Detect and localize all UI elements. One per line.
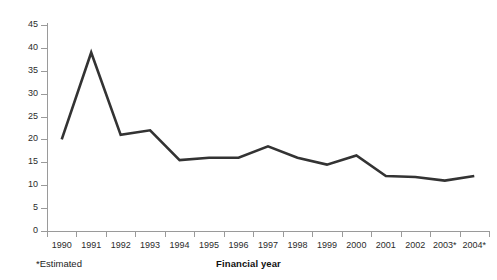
x-axis-tick-label: 2000 (342, 240, 371, 250)
x-axis-tick (253, 231, 254, 237)
x-axis-tick-label: 2004* (460, 240, 489, 250)
x-axis-tick (489, 231, 490, 237)
x-axis-tick-label: 2002 (401, 240, 430, 250)
y-axis-tick-label: 10 (4, 180, 38, 189)
x-axis-tick-label: 1994 (165, 240, 194, 250)
y-axis-tick-label: 45 (4, 20, 38, 29)
y-axis-tick-label: 20 (4, 134, 38, 143)
x-axis-tick (430, 231, 431, 237)
x-axis-tick-label: 1990 (47, 240, 76, 250)
x-axis-tick (342, 231, 343, 237)
x-axis-tick (106, 231, 107, 237)
x-axis-tick (135, 231, 136, 237)
x-axis-line (47, 231, 489, 232)
x-axis-tick (224, 231, 225, 237)
y-axis-tick (41, 71, 47, 72)
y-axis-tick-label: 15 (4, 157, 38, 166)
x-axis-tick-label: 1996 (224, 240, 253, 250)
y-axis-tick (41, 48, 47, 49)
x-axis-tick-label: 1995 (194, 240, 223, 250)
y-axis-tick (41, 139, 47, 140)
y-axis-tick-label: 25 (4, 112, 38, 121)
y-axis-tick-label: 40 (4, 43, 38, 52)
x-axis-tick (283, 231, 284, 237)
y-axis-tick (41, 94, 47, 95)
x-axis-tick-label: 1991 (76, 240, 105, 250)
x-axis-tick-label: 1997 (253, 240, 282, 250)
x-axis-tick (165, 231, 166, 237)
x-axis-tick-label: 1992 (106, 240, 135, 250)
y-axis-tick (41, 208, 47, 209)
y-axis-line (47, 23, 48, 232)
x-axis-tick (371, 231, 372, 237)
x-axis-tick (401, 231, 402, 237)
x-axis-tick-label: 2001 (371, 240, 400, 250)
y-axis-tick (41, 117, 47, 118)
y-axis-tick-label: 0 (4, 226, 38, 235)
x-axis-tick-label: 1999 (312, 240, 341, 250)
x-axis-title: Financial year (0, 258, 497, 269)
y-axis-tick (41, 162, 47, 163)
x-axis-tick (460, 231, 461, 237)
x-axis-tick (76, 231, 77, 237)
y-axis-tick-label: 30 (4, 89, 38, 98)
x-axis-tick-label: 1993 (135, 240, 164, 250)
y-axis-tick (41, 25, 47, 26)
data-line (0, 0, 497, 280)
x-axis-tick-label: 2003* (430, 240, 459, 250)
x-axis-tick-label: 1998 (283, 240, 312, 250)
y-axis-tick-label: 5 (4, 203, 38, 212)
x-axis-tick (194, 231, 195, 237)
x-axis-tick (47, 231, 48, 237)
y-axis-tick (41, 185, 47, 186)
x-axis-tick (312, 231, 313, 237)
line-chart: 051015202530354045 199019911992199319941… (0, 0, 497, 280)
y-axis-tick-label: 35 (4, 66, 38, 75)
